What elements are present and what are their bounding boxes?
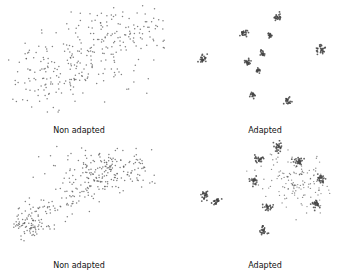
data-point: [22, 99, 24, 101]
data-point: [106, 34, 108, 36]
data-point: [112, 161, 114, 163]
data-point: [105, 181, 107, 183]
data-point: [25, 201, 27, 203]
data-point: [141, 186, 143, 188]
data-point: [93, 44, 95, 46]
data-point: [303, 187, 304, 188]
data-point: [134, 169, 136, 171]
data-point: [294, 165, 295, 166]
data-point: [58, 88, 60, 90]
data-point: [138, 162, 140, 164]
cluster-point: [272, 204, 274, 206]
data-point: [66, 197, 68, 199]
data-point: [116, 31, 118, 33]
cluster-point: [275, 17, 277, 19]
cluster-point: [320, 46, 322, 48]
caption-adapted-1: Adapted: [248, 126, 282, 135]
data-point: [304, 182, 305, 183]
data-point: [153, 40, 155, 42]
data-point: [284, 198, 285, 199]
data-point: [90, 174, 92, 176]
data-point: [101, 41, 103, 43]
data-point: [306, 212, 307, 213]
data-point: [30, 215, 32, 217]
data-point: [43, 57, 45, 59]
cluster-point: [320, 175, 322, 177]
data-point: [314, 183, 315, 184]
data-point: [61, 92, 63, 94]
data-point: [88, 73, 90, 75]
data-point: [133, 70, 135, 72]
data-point: [15, 225, 17, 227]
data-point: [156, 45, 158, 47]
data-point: [37, 214, 39, 216]
data-point: [86, 64, 88, 66]
data-point: [70, 63, 72, 65]
cluster-point: [246, 36, 248, 38]
data-point: [80, 42, 82, 44]
data-point: [59, 81, 61, 83]
data-point: [19, 207, 21, 209]
data-point: [151, 149, 153, 151]
data-point: [119, 192, 121, 194]
cluster-point: [258, 69, 260, 71]
cluster-point: [221, 198, 223, 200]
cluster-point: [322, 178, 324, 180]
data-point: [87, 50, 89, 52]
data-point: [114, 74, 116, 76]
cluster-point: [276, 144, 278, 146]
data-point: [85, 155, 87, 157]
cluster-point: [275, 150, 277, 152]
data-point: [23, 231, 25, 233]
data-point: [75, 32, 77, 34]
data-point: [151, 21, 153, 23]
data-point: [79, 51, 81, 53]
data-point: [142, 5, 144, 7]
cluster-point: [261, 232, 263, 234]
cluster-point: [200, 194, 202, 196]
data-point: [265, 196, 266, 197]
data-point: [46, 213, 48, 215]
cluster-point: [259, 72, 261, 74]
data-point: [84, 79, 86, 81]
data-point: [84, 196, 86, 198]
data-point: [70, 57, 72, 59]
cluster-point: [264, 206, 266, 208]
data-point: [112, 33, 114, 35]
cluster-point: [276, 149, 278, 151]
data-point: [73, 56, 75, 58]
cluster-point: [285, 101, 287, 103]
cluster-point: [319, 207, 321, 209]
data-point: [63, 177, 65, 179]
data-point: [55, 32, 57, 34]
data-point: [38, 45, 40, 47]
data-point: [111, 18, 113, 20]
data-point: [33, 57, 35, 59]
data-point: [129, 34, 131, 36]
cluster-point: [278, 17, 280, 19]
data-point: [122, 150, 124, 152]
cluster-point: [245, 32, 247, 34]
data-point: [76, 202, 78, 204]
data-point: [279, 175, 280, 176]
data-point: [101, 178, 103, 180]
data-point: [135, 162, 137, 164]
cluster-point: [242, 34, 244, 36]
cluster-point: [258, 160, 260, 162]
cluster-point: [300, 160, 302, 162]
cluster-point: [201, 196, 203, 198]
cluster-point: [280, 142, 282, 144]
data-point: [19, 221, 21, 223]
data-point: [143, 26, 145, 28]
cluster-point: [320, 182, 322, 184]
data-point: [288, 180, 289, 181]
data-point: [29, 90, 31, 92]
data-point: [54, 208, 56, 210]
data-point: [134, 33, 136, 35]
data-point: [72, 46, 74, 48]
data-point: [24, 222, 26, 224]
data-point: [8, 59, 10, 61]
data-point: [157, 26, 159, 28]
cluster-point: [322, 51, 324, 53]
data-point: [25, 89, 27, 91]
